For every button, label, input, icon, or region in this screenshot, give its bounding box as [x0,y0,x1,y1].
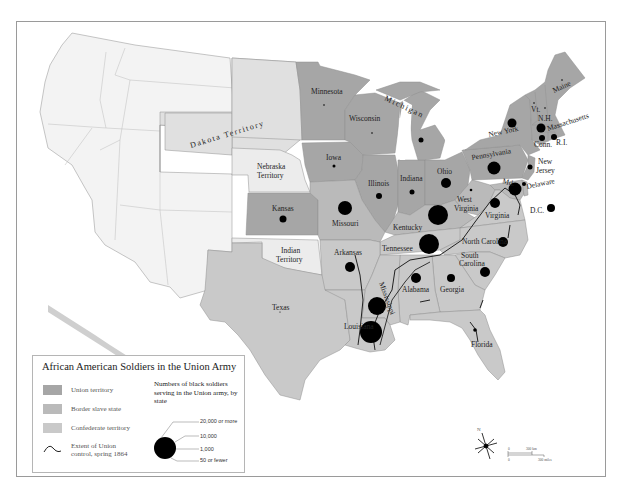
new-york [465,95,540,155]
scale-bar: 0 300 km 0 300 miles [506,446,556,466]
legend-item-confederate: Confederate territory [43,423,130,433]
legend: African American Soldiers in the Union A… [32,355,245,473]
label-minnesota: Minnesota [311,87,343,96]
label-texas: Texas [272,303,289,312]
soldier-dot [376,193,382,199]
soldier-dot [345,262,355,272]
soldier-dot [488,162,501,175]
compass-north: N [477,427,481,432]
western-states [40,33,235,298]
soldier-dot [428,205,448,225]
legend-title: African American Soldiers in the Union A… [42,361,236,372]
label-georgia: Georgia [440,285,465,294]
legend-item-union-line: Extent of Union control, spring 1864 [43,442,128,458]
label-indian: Indian [281,246,300,255]
size-circle [154,437,176,459]
label-nebraska-2: Territory [257,171,284,180]
size-label-10000: 10,000 [200,433,217,439]
label-alabama: Alabama [402,285,430,294]
soldier-dot [470,189,473,192]
confederate-swatch [43,423,62,433]
label-nebraska: Nebraska [257,162,286,171]
label-connecticut: Conn. [534,140,552,149]
label-rhode-island: R.I. [556,138,567,147]
soldier-dot [410,190,415,195]
soldier-dot [441,178,451,188]
size-legend-title: Numbers of black soldiers serving in the… [154,380,244,406]
soldier-dot [371,132,373,134]
soldier-dot [528,165,533,170]
label-new-hampshire: N.H. [538,114,553,123]
label-ohio: Ohio [437,167,452,176]
scale-km-zero: 0 [508,447,510,451]
soldier-dot [411,273,421,283]
soldier-dot [333,165,336,168]
scale-mi-zero: 0 [508,458,510,462]
size-label-1000: 1,000 [200,446,214,452]
scale-km-label: 300 km [526,447,537,451]
label-kentucky: Kentucky [393,223,422,232]
soldier-dot [419,138,424,143]
size-label-20000: 20,000 or more [200,418,237,424]
union-swatch [43,385,62,395]
size-label-50: 50 or fewer [200,457,228,463]
label-north-carolina: North Carolina [462,237,508,246]
label-west-virginia: West [457,195,473,204]
scale-mi-label: 300 miles [538,458,552,462]
soldier-dot [447,274,455,282]
union-line-icon [43,442,62,454]
soldier-dot [323,104,325,106]
legend-line-label-1: Extent of Union [71,442,128,450]
border-swatch [43,404,62,414]
label-new-jersey: New [538,157,553,166]
label-arkansas: Arkansas [334,248,362,257]
compass-rose-icon: N [474,424,500,460]
label-louisiana: Louisiana [344,322,374,331]
soldier-dot [490,198,500,208]
soldier-dot [338,201,352,215]
label-florida: Florida [471,340,493,349]
soldier-dot [480,267,490,277]
legend-item-border: Border slave state [43,404,121,414]
label-virginia: Virginia [485,211,510,220]
label-south-carolina-2: Carolina [459,259,485,268]
soldier-dot [547,204,555,212]
label-tennessee: Tennessee [382,244,413,253]
soldier-dot [544,107,546,109]
label-iowa: Iowa [326,153,342,162]
label-new-jersey-2: Jersey [536,166,555,175]
label-wisconsin: Wisconsin [349,114,381,123]
legend-item-union: Union territory [43,385,113,395]
legend-line-label-2: control, spring 1864 [71,450,128,458]
soldier-dot [473,328,477,332]
label-dc: D.C. [530,206,544,215]
label-indiana: Indiana [400,174,423,183]
legend-label-union: Union territory [71,386,113,394]
legend-label-confederate: Confederate territory [71,424,130,432]
soldier-dot [419,234,439,254]
iowa [302,142,363,182]
label-west-virginia-2: Virginia [454,204,479,213]
label-illinois: Illinois [368,179,389,188]
soldier-dot [280,216,287,223]
indiana [398,160,425,215]
soldier-dot [537,124,546,133]
new-england [525,52,585,145]
legend-label-border: Border slave state [71,405,121,413]
label-vermont: Vt. [531,105,541,114]
label-missouri: Missouri [332,219,359,228]
kansas [246,193,318,235]
label-indian-2: Territory [276,255,303,264]
label-kansas: Kansas [272,204,294,213]
soldier-dot [533,102,535,104]
label-delaware: Delaware [526,176,557,191]
